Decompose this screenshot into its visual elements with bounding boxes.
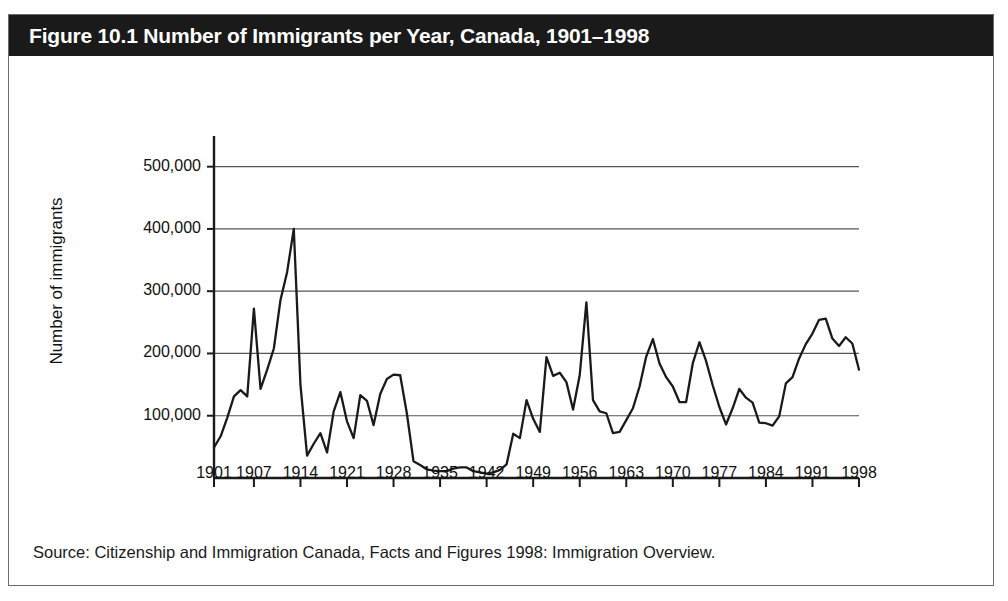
y-tick-label: 500,000 bbox=[109, 157, 201, 175]
figure-container: Figure 10.1 Number of Immigrants per Yea… bbox=[8, 14, 994, 586]
figure-title: Figure 10.1 Number of Immigrants per Yea… bbox=[29, 24, 649, 48]
y-tick-label: 400,000 bbox=[109, 219, 201, 237]
chart-plot-area: Number of immigrants 100,000200,000300,0… bbox=[9, 56, 993, 526]
gridlines-group bbox=[207, 167, 859, 416]
figure-title-bar: Figure 10.1 Number of Immigrants per Yea… bbox=[9, 15, 993, 56]
y-tick-label: 100,000 bbox=[109, 406, 201, 424]
x-tick-label: 1998 bbox=[829, 464, 889, 482]
y-tick-label: 200,000 bbox=[109, 343, 201, 361]
source-note: Source: Citizenship and Immigration Cana… bbox=[33, 543, 715, 562]
data-series-line bbox=[214, 229, 859, 474]
y-tick-label: 300,000 bbox=[109, 281, 201, 299]
